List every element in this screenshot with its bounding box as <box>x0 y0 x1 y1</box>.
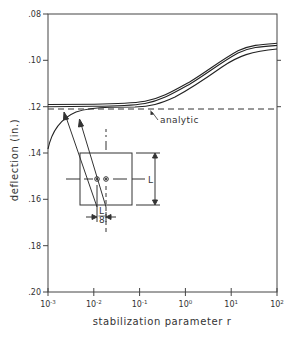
x-tick-labels: 10-3 10-2 10-1 100 101 102 <box>40 299 284 309</box>
y-tick-label: .18 <box>28 242 41 251</box>
y-tick-label: .16 <box>28 195 41 204</box>
inset-plate-diagram <box>66 129 160 232</box>
y-tick-label: .08 <box>28 10 41 19</box>
x-tick-label: 102 <box>270 299 284 309</box>
y-tick-label: .12 <box>28 103 41 112</box>
x-tick-label: 100 <box>179 299 193 309</box>
x-axis-title: stabilization parameter r <box>93 316 232 327</box>
y-tick-labels: .08 .10 .12 .14 .16 .18 .20 <box>28 10 41 297</box>
analytic-label: analytic <box>160 115 199 125</box>
x-tick-label: 10-1 <box>132 299 148 309</box>
deflection-chart: .08 .10 .12 .14 .16 .18 .20 10-3 10-2 10… <box>0 0 293 337</box>
x-tick-label: 10-3 <box>40 299 56 309</box>
dim-frac-den: 8 <box>99 215 105 225</box>
dim-L-label: L <box>148 175 153 185</box>
curve-node-1-outline <box>48 43 277 104</box>
curve-node-2 <box>48 49 277 149</box>
x-tick-label: 10-2 <box>86 299 102 309</box>
analytic-annotation: analytic <box>151 110 199 125</box>
x-tick-label: 101 <box>224 299 238 309</box>
y-tick-label: .14 <box>28 149 41 158</box>
y-tick-label: .20 <box>28 288 41 297</box>
y-tick-label: .10 <box>28 56 41 65</box>
y-axis-title: deflection (in.) <box>9 119 20 201</box>
callout-arrows <box>64 112 107 207</box>
curve-node-1 <box>48 46 277 107</box>
